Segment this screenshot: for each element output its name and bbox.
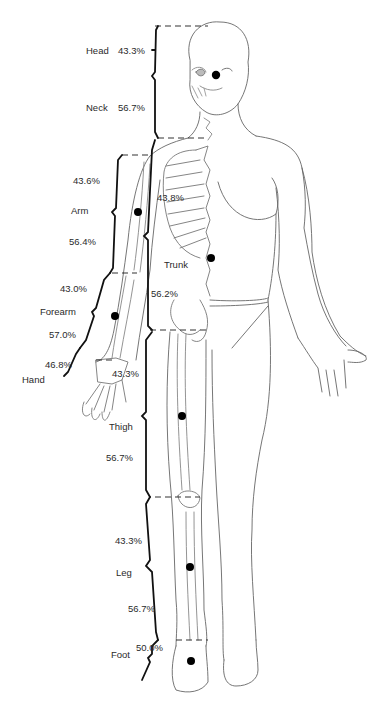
- bracket-arm: [110, 155, 122, 273]
- label-thigh: Thigh: [109, 422, 133, 432]
- label-thigh-top-pct: 43.3%: [112, 369, 139, 379]
- left-foot: [172, 646, 208, 692]
- label-head: Head: [86, 46, 109, 56]
- left-leg-inner: [201, 340, 206, 646]
- com-dot-thigh: [178, 412, 186, 420]
- label-foot-pct: 50.0%: [136, 643, 163, 653]
- label-forearm-bottom-pct: 57.0%: [49, 330, 76, 340]
- right-leg-inner: [212, 350, 224, 660]
- com-dot-head: [212, 71, 220, 79]
- chest: [218, 178, 278, 220]
- briefs: [210, 298, 268, 348]
- label-leg-bottom-pct: 56.7%: [128, 604, 155, 614]
- right-foot: [224, 640, 259, 686]
- left-leg-outline: [167, 332, 177, 646]
- head-outline: [189, 22, 249, 115]
- rib-cage: [163, 146, 210, 296]
- label-foot: Foot: [111, 650, 130, 660]
- bracket-head-neck: [152, 26, 158, 138]
- pelvis: [171, 300, 208, 342]
- label-thigh-bottom-pct: 56.7%: [106, 453, 133, 463]
- label-arm-top-pct: 43.6%: [73, 176, 100, 186]
- right-arm-inner: [276, 188, 298, 338]
- tibia-fibula: [186, 512, 198, 640]
- label-trunk-bottom-pct: 56.2%: [151, 289, 178, 299]
- femur: [177, 334, 190, 490]
- label-forearm: Forearm: [40, 307, 76, 317]
- right-arm-outer: [302, 168, 366, 356]
- label-leg: Leg: [116, 568, 132, 578]
- label-hand: Hand: [22, 375, 45, 385]
- label-leg-top-pct: 43.3%: [115, 536, 142, 546]
- jaw-teeth: [192, 86, 206, 98]
- com-dot-trunk: [207, 254, 215, 262]
- anatomical-figure: [0, 0, 388, 703]
- label-arm-bottom-pct: 56.4%: [69, 237, 96, 247]
- com-dot-arm: [134, 208, 142, 216]
- segment-brackets: [64, 26, 158, 680]
- com-dot-forearm: [111, 312, 119, 320]
- bracket-thigh: [142, 332, 152, 497]
- neck-outline: [188, 104, 256, 138]
- label-arm: Arm: [71, 206, 88, 216]
- label-head-pct: 43.3%: [118, 46, 145, 56]
- label-hand-pct: 46.8%: [45, 360, 72, 370]
- label-trunk: Trunk: [164, 260, 188, 270]
- com-dot-foot: [187, 657, 195, 665]
- eye-socket: [196, 69, 205, 76]
- right-eye: [222, 68, 232, 71]
- torso-outline-right: [256, 136, 346, 346]
- abdomen-side: [268, 214, 276, 300]
- right-leg-outline: [251, 300, 270, 640]
- kneecap: [178, 491, 200, 508]
- bracket-leg: [146, 497, 158, 640]
- right-hand: [298, 338, 366, 396]
- cervical-spine: [204, 118, 212, 140]
- label-forearm-top-pct: 43.0%: [60, 284, 87, 294]
- label-neck-pct: 56.7%: [118, 103, 145, 113]
- label-neck: Neck: [86, 103, 108, 113]
- label-trunk-top-pct: 43.8%: [157, 193, 184, 203]
- com-dot-leg: [186, 563, 194, 571]
